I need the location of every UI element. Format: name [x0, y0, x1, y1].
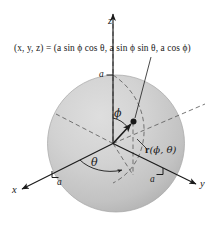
figure-canvas: [0, 0, 222, 227]
parametrization-equation: (x, y, z) = (a sin ϕ cos θ, a sin ϕ sin …: [14, 44, 191, 53]
z-axis-label: z: [108, 16, 112, 27]
spherical-coordinates-figure: (x, y, z) = (a sin ϕ cos θ, a sin ϕ sin …: [0, 0, 222, 227]
y-radius-tick-label: a: [150, 175, 155, 185]
y-axis-label: y: [200, 179, 205, 190]
surface-point-dot: [131, 119, 137, 125]
theta-angle-label: θ: [91, 157, 98, 168]
radius-vector-label: r(ϕ, θ): [145, 145, 176, 155]
radius-vector-args: (ϕ, θ): [149, 144, 176, 155]
x-axis-label: x: [12, 185, 17, 196]
x-radius-tick-label: a: [57, 178, 62, 188]
phi-angle-label: ϕ: [114, 108, 122, 119]
z-radius-tick-label: a: [99, 70, 104, 80]
